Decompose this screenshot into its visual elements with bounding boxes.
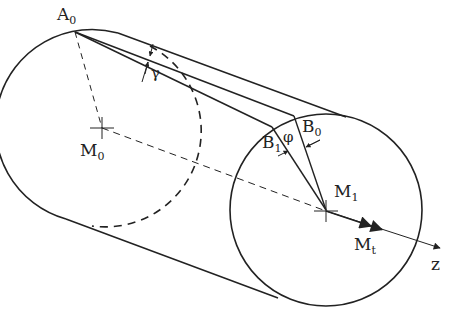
radius-M0-A0-dashed — [75, 32, 102, 128]
torque-vector — [326, 211, 371, 226]
label-A0: A0 — [57, 6, 76, 26]
diagram-canvas — [0, 0, 449, 320]
line-A0-B0 — [75, 32, 294, 116]
label-M0: M0 — [80, 142, 104, 162]
center-mark-M0 — [90, 117, 114, 139]
label-z-axis: z — [431, 256, 440, 273]
torque-vector-second-head — [368, 225, 382, 230]
label-B1: B1 — [262, 134, 282, 154]
label-Mt: Mt — [354, 236, 376, 256]
left-circle-front-arc — [0, 29, 118, 219]
label-phi: φ — [283, 130, 294, 145]
label-gamma: γ — [151, 66, 160, 81]
label-M1: M1 — [334, 183, 358, 203]
left-circle-hidden-arc — [92, 46, 201, 227]
label-B0: B0 — [302, 118, 322, 138]
cylinder-bottom-edge — [66, 219, 278, 298]
torsion-diagram: A0 M0 M1 B0 B1 Mt γ φ z — [0, 0, 449, 320]
